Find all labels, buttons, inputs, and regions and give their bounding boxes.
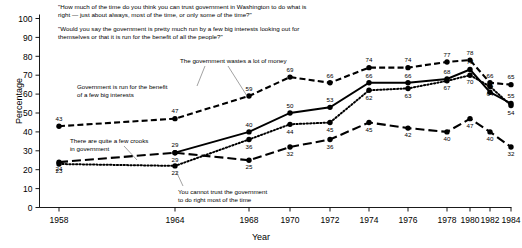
data-point-label: 59 — [246, 85, 253, 92]
data-point-label: 45 — [327, 126, 334, 133]
data-point-label: 47 — [172, 107, 179, 114]
data-point-label: 74 — [366, 56, 373, 63]
data-point-label: 64 — [487, 90, 494, 97]
y-tick-label: 40 — [23, 127, 33, 137]
data-point-label: 29 — [172, 141, 179, 148]
data-point — [56, 159, 61, 164]
x-tick-label: 1974 — [360, 215, 379, 225]
data-point-label: 32 — [287, 150, 294, 157]
data-point — [487, 129, 492, 134]
data-point-label: 36 — [327, 143, 334, 150]
leader-wastes-a — [197, 66, 205, 86]
chart-container: "How much of the time do you think you c… — [0, 0, 522, 248]
y-tick-label: 70 — [23, 70, 33, 80]
data-point — [287, 122, 292, 127]
y-tick-label: 90 — [23, 33, 33, 43]
data-point-label: 66 — [366, 72, 373, 79]
data-point-label: 32 — [508, 150, 515, 157]
data-point — [467, 73, 472, 78]
x-tick-label: 1980 — [461, 215, 480, 225]
y-tick-label: 100 — [18, 14, 32, 24]
data-point-label: 24 — [56, 165, 63, 172]
data-point — [508, 144, 513, 149]
x-tick-label: 1982 — [481, 215, 500, 225]
y-tick-label: 50 — [23, 108, 33, 118]
data-point-label: 73 — [467, 58, 474, 65]
data-point — [172, 163, 177, 168]
data-point-label: 47 — [467, 122, 474, 129]
data-point-label: 68 — [444, 68, 451, 75]
y-tick-label: 30 — [23, 146, 33, 156]
data-point-label: 25 — [246, 163, 253, 170]
data-point — [366, 88, 371, 93]
x-tick-label: 1964 — [166, 215, 185, 225]
data-point-label: 77 — [444, 51, 451, 58]
data-point-label: 62 — [366, 94, 373, 101]
data-point-label: 63 — [405, 92, 412, 99]
data-point-label: 36 — [246, 143, 253, 150]
data-point — [366, 65, 371, 70]
data-point — [327, 137, 332, 142]
y-tick-label: 80 — [23, 52, 33, 62]
x-tick-label: 1984 — [502, 215, 521, 225]
data-point-label: 42 — [405, 131, 412, 138]
data-point-label: 69 — [287, 66, 294, 73]
data-point — [172, 116, 177, 121]
data-point-label: 67 — [444, 84, 451, 91]
leader-wastes-b — [228, 66, 247, 96]
data-point — [405, 86, 410, 91]
data-point-label: 54 — [508, 109, 515, 116]
data-point-label: 70 — [467, 78, 474, 85]
y-tick-label: 60 — [23, 89, 33, 99]
data-point — [172, 150, 177, 155]
data-point-label: 78 — [467, 49, 474, 56]
data-point — [246, 137, 251, 142]
data-point-label: 66 — [327, 72, 334, 79]
data-point — [405, 80, 410, 85]
y-tick-label: 10 — [23, 184, 33, 194]
data-point-label: 29 — [172, 156, 179, 163]
leader-crooks — [124, 146, 137, 160]
x-tick-label: 1978 — [438, 215, 457, 225]
data-point-label: 66 — [405, 72, 412, 79]
data-point-label: 66 — [487, 72, 494, 79]
data-point-label: 40 — [246, 121, 253, 128]
data-point — [444, 78, 449, 83]
plot-area: 0102030405060708090100195819641968197019… — [0, 0, 522, 248]
data-point-label: 55 — [508, 92, 515, 99]
x-tick-label: 1972 — [321, 215, 340, 225]
data-point — [467, 116, 472, 121]
data-point-label: 50 — [287, 102, 294, 109]
data-point — [366, 80, 371, 85]
data-point — [508, 82, 513, 87]
data-point-label: 43 — [56, 115, 63, 122]
data-point-label: 53 — [327, 96, 334, 103]
x-tick-label: 1970 — [281, 215, 300, 225]
data-point-label: 40 — [487, 135, 494, 142]
data-point — [405, 125, 410, 130]
data-point — [246, 93, 251, 98]
data-point — [487, 84, 492, 89]
data-point — [444, 59, 449, 64]
data-point-label: 45 — [366, 126, 373, 133]
data-point — [508, 103, 513, 108]
data-point-label: 65 — [508, 73, 515, 80]
data-point — [405, 65, 410, 70]
data-point — [467, 67, 472, 72]
data-point — [327, 105, 332, 110]
x-tick-label: 1976 — [399, 215, 418, 225]
data-point — [327, 80, 332, 85]
data-point — [287, 110, 292, 115]
data-point — [366, 120, 371, 125]
data-point — [327, 120, 332, 125]
data-point — [287, 74, 292, 79]
y-tick-label: 0 — [28, 203, 33, 213]
leader-trust — [176, 171, 183, 186]
data-point-label: 74 — [405, 56, 412, 63]
data-point — [246, 129, 251, 134]
x-tick-label: 1968 — [240, 215, 259, 225]
data-point — [287, 144, 292, 149]
data-point — [56, 124, 61, 129]
y-tick-label: 20 — [23, 165, 33, 175]
data-point — [246, 158, 251, 163]
